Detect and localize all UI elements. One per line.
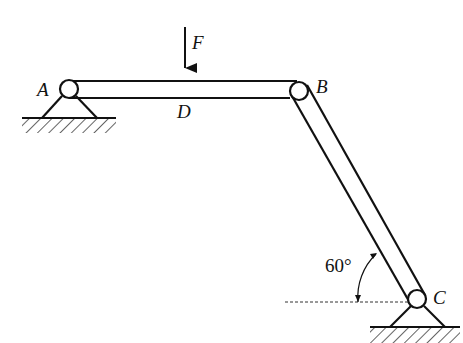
- label-d: D: [177, 102, 191, 121]
- pin-c: [408, 290, 426, 308]
- angle-arc: [358, 254, 376, 302]
- angle-arrow-bottom: [355, 295, 361, 302]
- pin-support-c: [390, 306, 445, 327]
- ground-c: [370, 327, 460, 343]
- label-angle: 60°: [325, 256, 352, 275]
- member-bc: [292, 85, 425, 303]
- ground-a: [22, 118, 116, 133]
- label-b: B: [316, 77, 328, 96]
- frame-diagram: [0, 0, 463, 343]
- pin-support-a: [42, 96, 97, 118]
- pin-a: [60, 80, 78, 98]
- pin-b: [290, 82, 308, 100]
- beam-ab: [69, 81, 297, 98]
- label-c: C: [433, 288, 446, 307]
- label-force: F: [192, 33, 204, 52]
- label-a: A: [37, 80, 49, 99]
- angle-arrow-top: [370, 253, 377, 259]
